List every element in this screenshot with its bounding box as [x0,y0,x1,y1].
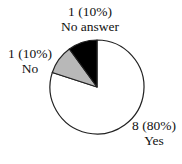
label-no-count: 1 (10%) [2,46,58,61]
label-yes: 8 (80%) Yes [126,118,182,148]
label-no-answer-name: No answer [52,19,128,34]
label-no-answer-count: 1 (10%) [52,4,128,19]
label-no-answer: 1 (10%) No answer [52,4,128,34]
label-yes-name: Yes [126,133,182,148]
label-yes-count: 8 (80%) [126,118,182,133]
pie-chart: 1 (10%) No answer 1 (10%) No 8 (80%) Yes [0,0,182,164]
label-no: 1 (10%) No [2,46,58,76]
label-no-name: No [2,61,58,76]
